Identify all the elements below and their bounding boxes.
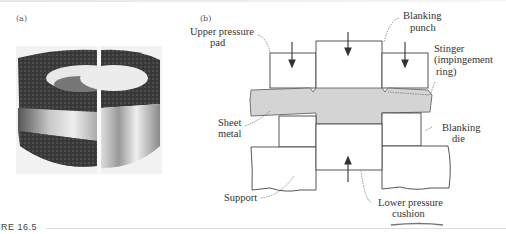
label-sheet-metal-2: metal: [218, 128, 241, 139]
label-stinger-2: (impingement: [434, 54, 493, 66]
label-upper-pressure-pad: Upper pressure: [190, 26, 254, 37]
label-blanking-die: Blanking: [442, 122, 481, 133]
label-lower-pressure-cushion: Lower pressure: [378, 197, 443, 208]
label-blanking-punch-2: punch: [410, 22, 436, 33]
label-blanking-punch: Blanking: [403, 10, 442, 21]
label-upper-pressure-pad-2: pad: [210, 37, 226, 48]
caption-rule: [46, 228, 506, 229]
figure-caption: URE 16.5: [0, 222, 37, 232]
label-sheet-metal: Sheet: [218, 117, 241, 128]
fine-blanking-diagram: Upper pressure pad Blanking punch Stinge…: [0, 0, 506, 234]
label-support: Support: [224, 192, 257, 203]
label-lower-pressure-cushion-2: cushion: [392, 208, 425, 219]
label-stinger: Stinger: [434, 43, 465, 54]
label-blanking-die-2: die: [452, 133, 465, 144]
label-stinger-3: ring): [436, 66, 457, 78]
